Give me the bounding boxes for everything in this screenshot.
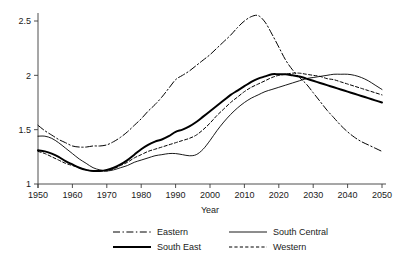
x-tick-label: 1950 (28, 190, 48, 200)
y-tick-label: 1.5 (18, 125, 31, 135)
chart-canvas: 11.522.5 1950196019701980199020002010202… (0, 0, 404, 261)
series-line-south-central (38, 74, 382, 171)
x-tick-label: 1960 (62, 190, 82, 200)
legend-label-south-central: South Central (273, 227, 328, 237)
legend-label-western: Western (273, 242, 306, 252)
legend-label-eastern: Eastern (157, 227, 188, 237)
x-tick-label: 2050 (372, 190, 392, 200)
x-tick-label: 2040 (338, 190, 358, 200)
series-line-south-east (38, 74, 382, 171)
y-tick-label: 2.5 (18, 16, 31, 26)
series-line-eastern (38, 15, 382, 151)
legend-label-south-east: South East (157, 242, 202, 252)
x-axis: 1950196019701980199020002010202020302040… (28, 184, 392, 200)
x-tick-label: 2000 (200, 190, 220, 200)
chart-legend: EasternSouth CentralSouth EastWestern (113, 227, 328, 252)
x-tick-label: 1990 (166, 190, 186, 200)
line-chart: 11.522.5 1950196019701980199020002010202… (0, 0, 404, 261)
x-tick-label: 1970 (97, 190, 117, 200)
x-axis-title: Year (201, 205, 219, 215)
y-axis: 11.522.5 (18, 13, 38, 189)
series-layer (38, 15, 382, 171)
x-tick-label: 2010 (234, 190, 254, 200)
series-line-western (38, 73, 382, 171)
x-tick-label: 2020 (269, 190, 289, 200)
y-tick-label: 1 (26, 179, 31, 189)
x-tick-label: 2030 (303, 190, 323, 200)
x-tick-label: 1980 (131, 190, 151, 200)
y-tick-label: 2 (26, 71, 31, 81)
